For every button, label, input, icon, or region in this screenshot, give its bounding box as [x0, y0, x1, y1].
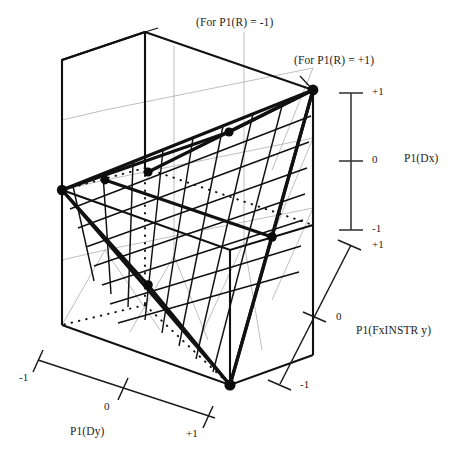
- vertex-marker: [57, 185, 67, 195]
- annotation-r-minus-one: (For P1(R) = -1): [196, 16, 273, 28]
- vertex-marker: [143, 167, 152, 176]
- vertex-marker: [101, 176, 110, 185]
- axis-dx-label: P1(Dx): [404, 152, 438, 164]
- vertex-marker: [224, 127, 233, 136]
- axis-fxinstr-tick-zero: 0: [336, 310, 342, 322]
- axis-fxinstr-label: P1(FxINSTR y): [356, 324, 431, 336]
- three-d-plot-svg: [0, 0, 465, 470]
- axis-dy-tick-plus-one: +1: [186, 427, 198, 439]
- vertex-markers: [57, 85, 319, 391]
- figure-canvas: (For P1(R) = -1) (For P1(R) = +1) +1 0 -…: [0, 0, 465, 470]
- annotation-r-plus-one: (For P1(R) = +1): [294, 54, 374, 66]
- axis-dx-tick-minus-one: -1: [372, 222, 381, 234]
- axis-dx-tick-zero: 0: [372, 153, 378, 165]
- axis-dy-tick-minus-one: -1: [19, 371, 28, 383]
- axis-horizontal-dy: [33, 350, 215, 428]
- vertex-marker: [267, 232, 277, 242]
- axis-depth-fxinstr: [268, 240, 361, 390]
- axis-fxinstr-tick-minus-one: -1: [300, 378, 309, 390]
- axis-fxinstr-tick-plus-one: +1: [372, 238, 384, 250]
- axis-dy-label: P1(Dy): [70, 425, 104, 437]
- vertex-marker: [143, 280, 153, 290]
- vertex-marker: [224, 379, 235, 390]
- axis-dy-tick-zero: 0: [104, 400, 110, 412]
- axis-dx-tick-plus-one: +1: [372, 85, 384, 97]
- axis-vertical-dx: [339, 93, 363, 230]
